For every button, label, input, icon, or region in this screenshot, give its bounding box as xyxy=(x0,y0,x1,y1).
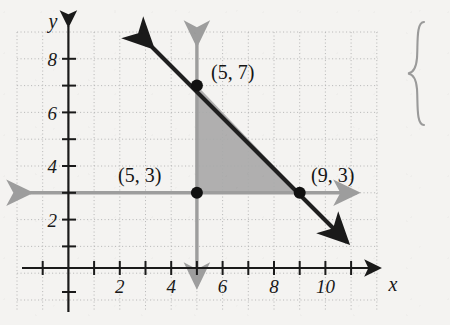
x-tick-label-4: 4 xyxy=(166,276,176,297)
x-tick-label-6: 6 xyxy=(218,276,228,297)
x-tick-label-2: 2 xyxy=(115,276,125,297)
coordinate-plane-figure: 8 6 4 2 2 4 6 8 10 y x (5, 7) (5, 3) (9,… xyxy=(0,0,450,325)
point-label-9-3: (9, 3) xyxy=(311,164,354,187)
y-axis-label: y xyxy=(47,10,58,33)
y-tick-label-2: 2 xyxy=(48,210,58,231)
y-tick-label-4: 4 xyxy=(48,156,58,177)
x-tick-label-8: 8 xyxy=(269,276,279,297)
x-tick-label-10: 10 xyxy=(316,276,336,297)
point-label-5-3: (5, 3) xyxy=(118,164,161,187)
y-tick-label-6: 6 xyxy=(48,103,58,124)
point-5-7 xyxy=(191,80,203,92)
y-tick-label-8: 8 xyxy=(48,49,58,70)
x-axis-label: x xyxy=(388,273,398,295)
point-5-3 xyxy=(191,187,203,199)
point-label-5-7: (5, 7) xyxy=(211,61,254,84)
point-9-3 xyxy=(294,187,306,199)
